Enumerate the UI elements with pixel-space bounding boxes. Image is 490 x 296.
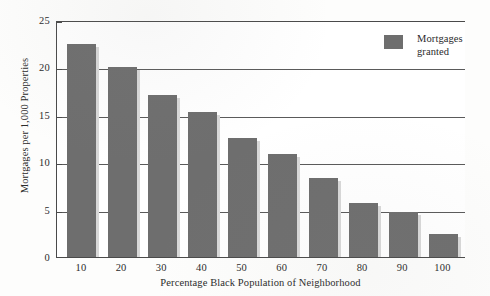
bar	[429, 234, 458, 257]
x-tick-label: 50	[222, 262, 262, 273]
bar	[309, 178, 338, 257]
legend-label-mortgages-granted: Mortgages granted	[417, 33, 463, 58]
bar	[67, 44, 96, 257]
x-tick-label: 40	[181, 262, 221, 273]
legend: Mortgages granted	[384, 33, 463, 58]
y-tick-mark	[57, 164, 62, 165]
y-tick-label: 0	[24, 253, 50, 264]
y-tick-mark	[57, 117, 62, 118]
x-tick-label: 30	[141, 262, 181, 273]
bar	[108, 67, 137, 257]
x-tick-label: 20	[101, 262, 141, 273]
bar	[148, 95, 177, 257]
x-tick-label: 90	[382, 262, 422, 273]
x-tick-label: 100	[423, 262, 463, 273]
bar	[268, 154, 297, 257]
x-tick-label: 10	[61, 262, 101, 273]
y-tick-mark	[57, 69, 62, 70]
y-tick-mark	[57, 22, 62, 23]
legend-swatch-mortgages-granted	[384, 35, 403, 49]
bar	[228, 138, 257, 257]
x-tick-label: 80	[342, 262, 382, 273]
chart-figure: 0510152025 Mortgages per 1,000 Propertie…	[0, 0, 490, 296]
y-tick-mark	[57, 212, 62, 213]
x-axis-title: Percentage Black Population of Neighborh…	[56, 277, 465, 288]
x-tick-label: 60	[262, 262, 302, 273]
x-tick-label: 70	[302, 262, 342, 273]
bar	[349, 203, 378, 257]
y-axis-title: Mortgages per 1,000 Properties	[19, 26, 30, 226]
bar	[389, 212, 418, 257]
bar	[188, 112, 217, 257]
